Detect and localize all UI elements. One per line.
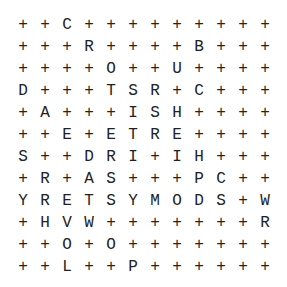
grid-cell-letter[interactable]: U (166, 58, 188, 80)
grid-cell-letter[interactable]: I (166, 146, 188, 168)
grid-cell-filler[interactable]: + (78, 58, 100, 80)
grid-cell-letter[interactable]: D (12, 80, 34, 102)
grid-cell-letter[interactable]: R (254, 212, 276, 234)
grid-cell-letter[interactable]: I (122, 102, 144, 124)
grid-cell-letter[interactable]: S (100, 168, 122, 190)
grid-cell-filler[interactable]: + (232, 36, 254, 58)
grid-cell-filler[interactable]: + (210, 212, 232, 234)
grid-cell-filler[interactable]: + (188, 102, 210, 124)
grid-cell-filler[interactable]: + (34, 14, 56, 36)
grid-cell-filler[interactable]: + (12, 256, 34, 278)
grid-cell-letter[interactable]: R (78, 36, 100, 58)
grid-cell-letter[interactable]: L (56, 256, 78, 278)
grid-cell-letter[interactable]: S (210, 190, 232, 212)
grid-cell-filler[interactable]: + (12, 212, 34, 234)
grid-cell-filler[interactable]: + (34, 256, 56, 278)
grid-cell-filler[interactable]: + (210, 256, 232, 278)
grid-cell-filler[interactable]: + (144, 234, 166, 256)
grid-cell-letter[interactable]: E (100, 124, 122, 146)
grid-cell-filler[interactable]: + (12, 124, 34, 146)
grid-cell-letter[interactable]: H (34, 212, 56, 234)
grid-cell-filler[interactable]: + (232, 190, 254, 212)
grid-cell-letter[interactable]: V (56, 212, 78, 234)
grid-cell-filler[interactable]: + (100, 102, 122, 124)
grid-cell-filler[interactable]: + (100, 36, 122, 58)
grid-cell-filler[interactable]: + (56, 36, 78, 58)
grid-cell-filler[interactable]: + (188, 212, 210, 234)
grid-cell-filler[interactable]: + (78, 124, 100, 146)
grid-cell-letter[interactable]: T (78, 190, 100, 212)
grid-cell-filler[interactable]: + (56, 58, 78, 80)
grid-cell-filler[interactable]: + (210, 58, 232, 80)
grid-cell-filler[interactable]: + (12, 36, 34, 58)
grid-cell-filler[interactable]: + (232, 80, 254, 102)
grid-cell-filler[interactable]: + (166, 168, 188, 190)
grid-cell-filler[interactable]: + (210, 234, 232, 256)
grid-cell-filler[interactable]: + (210, 14, 232, 36)
grid-cell-filler[interactable]: + (232, 58, 254, 80)
grid-cell-filler[interactable]: + (56, 80, 78, 102)
grid-cell-letter[interactable]: T (122, 124, 144, 146)
grid-cell-filler[interactable]: + (254, 256, 276, 278)
grid-cell-filler[interactable]: + (166, 256, 188, 278)
grid-cell-filler[interactable]: + (166, 80, 188, 102)
grid-cell-filler[interactable]: + (144, 146, 166, 168)
grid-cell-filler[interactable]: + (100, 256, 122, 278)
grid-cell-filler[interactable]: + (232, 102, 254, 124)
grid-cell-filler[interactable]: + (34, 234, 56, 256)
grid-cell-filler[interactable]: + (34, 80, 56, 102)
grid-cell-filler[interactable]: + (254, 14, 276, 36)
grid-cell-letter[interactable]: Y (122, 190, 144, 212)
grid-cell-filler[interactable]: + (12, 102, 34, 124)
grid-cell-letter[interactable]: Y (12, 190, 34, 212)
grid-cell-filler[interactable]: + (34, 58, 56, 80)
grid-cell-filler[interactable]: + (122, 14, 144, 36)
grid-cell-letter[interactable]: O (100, 58, 122, 80)
grid-cell-letter[interactable]: H (166, 102, 188, 124)
grid-cell-filler[interactable]: + (122, 212, 144, 234)
grid-cell-letter[interactable]: D (188, 190, 210, 212)
grid-cell-filler[interactable]: + (166, 234, 188, 256)
grid-cell-letter[interactable]: S (12, 146, 34, 168)
grid-cell-letter[interactable]: P (188, 168, 210, 190)
grid-cell-filler[interactable]: + (34, 146, 56, 168)
grid-cell-letter[interactable]: C (56, 14, 78, 36)
grid-cell-filler[interactable]: + (188, 58, 210, 80)
grid-cell-letter[interactable]: R (144, 124, 166, 146)
grid-cell-letter[interactable]: D (78, 146, 100, 168)
grid-cell-letter[interactable]: A (78, 168, 100, 190)
grid-cell-filler[interactable]: + (78, 102, 100, 124)
grid-cell-letter[interactable]: E (166, 124, 188, 146)
grid-cell-filler[interactable]: + (254, 80, 276, 102)
grid-cell-letter[interactable]: R (144, 80, 166, 102)
grid-cell-letter[interactable]: O (166, 190, 188, 212)
grid-cell-filler[interactable]: + (78, 14, 100, 36)
grid-cell-letter[interactable]: C (210, 168, 232, 190)
grid-cell-letter[interactable]: E (56, 190, 78, 212)
grid-cell-filler[interactable]: + (78, 234, 100, 256)
grid-cell-filler[interactable]: + (144, 256, 166, 278)
grid-cell-filler[interactable]: + (254, 124, 276, 146)
grid-cell-filler[interactable]: + (232, 256, 254, 278)
grid-cell-letter[interactable]: R (34, 168, 56, 190)
grid-cell-filler[interactable]: + (210, 102, 232, 124)
grid-cell-filler[interactable]: + (166, 212, 188, 234)
grid-cell-filler[interactable]: + (232, 234, 254, 256)
grid-cell-letter[interactable]: R (34, 190, 56, 212)
grid-cell-filler[interactable]: + (122, 36, 144, 58)
grid-cell-filler[interactable]: + (122, 168, 144, 190)
grid-cell-letter[interactable]: T (100, 80, 122, 102)
grid-cell-filler[interactable]: + (12, 58, 34, 80)
grid-cell-letter[interactable]: C (188, 80, 210, 102)
grid-cell-filler[interactable]: + (78, 80, 100, 102)
grid-cell-letter[interactable]: W (254, 190, 276, 212)
grid-cell-filler[interactable]: + (122, 58, 144, 80)
grid-cell-letter[interactable]: A (34, 102, 56, 124)
grid-cell-filler[interactable]: + (34, 124, 56, 146)
grid-cell-filler[interactable]: + (56, 102, 78, 124)
grid-cell-letter[interactable]: P (122, 256, 144, 278)
grid-cell-letter[interactable]: O (56, 234, 78, 256)
grid-cell-filler[interactable]: + (254, 36, 276, 58)
grid-cell-filler[interactable]: + (210, 146, 232, 168)
grid-cell-filler[interactable]: + (144, 36, 166, 58)
